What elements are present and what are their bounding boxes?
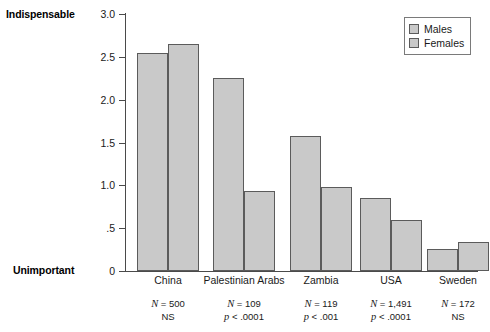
stats-sweden: N = 172NS <box>367 297 490 323</box>
y-tick-mark <box>119 271 125 272</box>
y-tick-label: 1.5 <box>89 138 115 149</box>
axis-top-label: Indispensable <box>6 8 75 20</box>
bar-females-sweden <box>458 242 489 271</box>
legend-swatch-icon <box>409 24 419 34</box>
bar-males-china <box>137 53 168 271</box>
legend-label: Males <box>424 24 452 35</box>
bar-females-china <box>168 44 199 271</box>
stat-sample-size: N = 172 <box>367 297 490 310</box>
bar-males-usa <box>360 198 391 271</box>
legend-item-females: Females <box>409 36 464 50</box>
y-tick-label: .5 <box>89 223 115 234</box>
legend-swatch-icon <box>409 38 419 48</box>
bar-chart-figure: Indispensable Unimportant 0.51.01.52.02.… <box>0 0 490 332</box>
legend-item-males: Males <box>409 22 464 36</box>
x-axis-line <box>125 271 478 272</box>
bar-females-palestinian-arabs <box>244 191 275 271</box>
bar-males-palestinian-arabs <box>213 78 244 271</box>
stat-significance: NS <box>367 310 490 323</box>
axis-bottom-label: Unimportant <box>13 264 74 276</box>
category-label-sweden: Sweden <box>367 274 490 286</box>
bar-males-sweden <box>427 249 458 271</box>
y-tick-label: 1.0 <box>89 180 115 191</box>
y-tick-label: 2.5 <box>89 52 115 63</box>
legend: MalesFemales <box>404 17 471 55</box>
bar-females-usa <box>391 220 422 271</box>
y-tick-label: 3.0 <box>89 9 115 20</box>
bar-males-zambia <box>290 136 321 271</box>
bar-females-zambia <box>321 187 352 271</box>
y-tick-label: 2.0 <box>89 95 115 106</box>
legend-label: Females <box>424 38 464 49</box>
